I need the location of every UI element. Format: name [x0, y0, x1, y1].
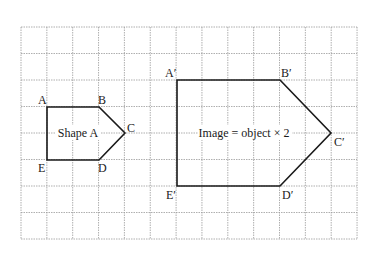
vertex-label-a: A [38, 93, 47, 107]
vertex-label-d-prime: D′ [282, 188, 294, 202]
vertex-label-b-prime: B′ [281, 66, 292, 80]
vertex-label-c-prime: C′ [334, 135, 345, 149]
vertex-label-e: D [98, 161, 107, 175]
image-label: Image = object × 2 [199, 126, 290, 140]
vertex-label-d: E [38, 161, 45, 175]
shape-a-label: Shape A [58, 126, 99, 140]
vertex-label-a-prime: A′ [165, 66, 177, 80]
vertex-label-b: B [98, 93, 106, 107]
vertex-label-c: C [127, 121, 135, 135]
enlargement-diagram: Shape A Image = object × 2 A B C E D A′ … [0, 0, 375, 255]
vertex-label-e-prime: E′ [166, 188, 176, 202]
